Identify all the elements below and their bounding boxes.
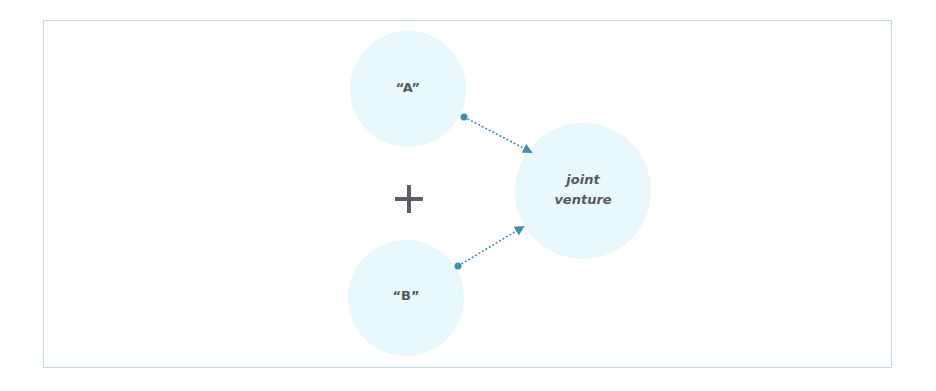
dotted-arrow-icon (458, 227, 523, 266)
node-b-label: “B” (376, 288, 436, 303)
diagram-canvas (0, 0, 936, 391)
edge-a-to-jv (461, 114, 532, 153)
dotted-arrow-icon (464, 117, 531, 152)
node-a-label: “A” (378, 80, 438, 95)
node-jv-label-line2: venture (533, 190, 633, 210)
node-jv-label-line1: joint (533, 170, 633, 190)
node-jv-label: joint venture (533, 170, 633, 210)
plus-icon (395, 185, 423, 213)
edge-b-to-jv (455, 227, 524, 270)
